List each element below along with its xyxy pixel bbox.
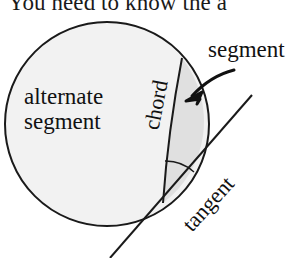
figure-page: You need to know the a alternate segment… <box>0 0 304 258</box>
segment-label: segment <box>208 38 285 63</box>
alternate-segment-label-line1: alternate <box>24 85 103 110</box>
alternate-segment-label: alternate segment <box>24 85 103 135</box>
alternate-segment-label-line2: segment <box>24 110 103 135</box>
